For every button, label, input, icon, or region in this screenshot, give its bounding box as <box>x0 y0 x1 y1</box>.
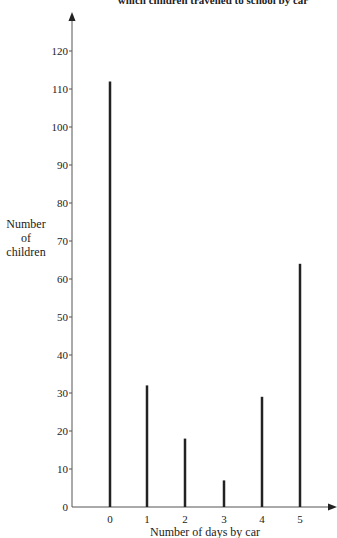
bar-chart: which children travelled to school by ca… <box>0 0 337 538</box>
y-tick-label: 50 <box>57 311 69 323</box>
y-axis-label-line-3: children <box>6 245 45 259</box>
y-tick-label: 20 <box>57 425 69 437</box>
y-axis-label-line-1: Number <box>6 217 45 231</box>
y-tick-label: 30 <box>57 387 69 399</box>
chart-title: which children travelled to school by ca… <box>118 0 309 6</box>
x-tick-label: 0 <box>107 513 113 525</box>
y-tick-label: 100 <box>52 121 69 133</box>
y-axis-label-line-2: of <box>21 231 31 245</box>
y-axis-label: Number of children <box>6 217 45 259</box>
y-tick-label: 120 <box>52 45 69 57</box>
x-tick-label: 5 <box>297 513 303 525</box>
y-axis-arrow-icon <box>69 12 76 21</box>
x-ticks: 012345 <box>107 513 303 525</box>
x-axis-arrow-icon <box>328 504 337 511</box>
y-tick-label: 60 <box>57 273 69 285</box>
y-ticks: 0102030405060708090100110120 <box>52 45 73 513</box>
x-tick-label: 3 <box>221 513 227 525</box>
x-axis-label: Number of days by car <box>150 525 260 538</box>
x-tick-label: 1 <box>144 513 150 525</box>
y-tick-label: 90 <box>57 159 69 171</box>
y-tick-label: 0 <box>63 501 69 513</box>
bars <box>110 81 300 507</box>
y-tick-label: 40 <box>57 349 69 361</box>
y-tick-label: 70 <box>57 235 69 247</box>
y-tick-label: 110 <box>52 83 69 95</box>
y-tick-label: 80 <box>57 197 69 209</box>
x-tick-label: 2 <box>182 513 188 525</box>
x-tick-label: 4 <box>259 513 265 525</box>
y-tick-label: 10 <box>57 463 69 475</box>
